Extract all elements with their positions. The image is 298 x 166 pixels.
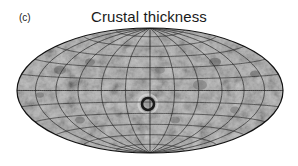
- surface-mottle: [170, 117, 180, 124]
- crustal-thickness-map: [0, 0, 298, 166]
- surface-mottle: [193, 80, 207, 90]
- surface-mottle: [106, 102, 114, 108]
- surface-mottle: [75, 117, 85, 124]
- surface-mottle: [209, 58, 221, 66]
- graticule: [17, 28, 283, 153]
- surface-mottle: [36, 92, 44, 98]
- central-basin: [138, 94, 157, 113]
- map-surface: [0, 0, 298, 166]
